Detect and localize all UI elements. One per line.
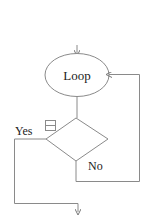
loop-label: Loop <box>63 68 90 83</box>
yes-label: Yes <box>15 124 33 138</box>
loop-node[interactable]: Loop <box>45 54 109 97</box>
no-label: No <box>88 159 103 173</box>
collapse-box-icon[interactable] <box>46 121 56 131</box>
flowchart-canvas: Loop Yes No <box>0 0 147 223</box>
